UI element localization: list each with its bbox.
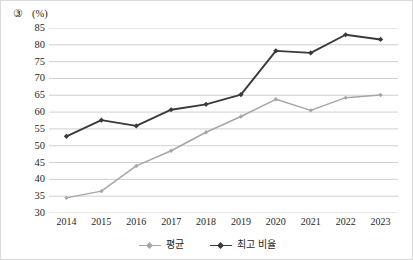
series-group [64,32,383,200]
y-tick-label: 45 [25,158,45,168]
legend-item-average[interactable]: 평균 [139,239,184,251]
series-line-1 [66,95,380,198]
y-tick-label: 75 [25,57,45,67]
data-point-marker [378,37,383,42]
y-tick-label: 80 [25,40,45,50]
figure-header: ③ (%) [1,7,161,23]
legend-label-highest-ratio: 최고 비율 [237,239,276,251]
chart-legend: 평균 최고 비율 [1,235,413,255]
y-axis-tick-labels: 858075706560555045403530 [23,28,45,213]
item-number-label: ③ [13,7,23,21]
line-chart-figure: ③ (%) 858075706560555045403530 201420152… [0,0,413,260]
y-tick-label: 30 [25,208,45,218]
y-tick-label: 85 [25,23,45,33]
legend-diamond-dot [146,241,153,248]
legend-label-average: 평균 [166,239,184,251]
y-tick-label: 50 [25,141,45,151]
series-line-2 [66,35,380,137]
plot-svg [49,28,398,213]
legend-item-highest-ratio[interactable]: 최고 비율 [210,239,276,251]
y-tick-label: 70 [25,73,45,83]
plot-area [49,28,398,213]
data-point-marker [343,95,347,99]
y-axis-unit-label: (%) [32,7,48,21]
x-axis-tick-labels: 2014201520162017201820192020202120222023 [49,215,398,231]
diamond-marker-icon [210,240,232,250]
diamond-marker-icon [139,240,161,250]
legend-diamond-dot [217,241,224,248]
y-tick-label: 65 [25,90,45,100]
y-tick-label: 60 [25,107,45,117]
y-tick-label: 40 [25,174,45,184]
y-tick-label: 55 [25,124,45,134]
y-tick-label: 35 [25,191,45,201]
data-point-marker [378,93,382,97]
data-point-marker [203,102,208,107]
x-tick-label: 2023 [361,215,401,228]
